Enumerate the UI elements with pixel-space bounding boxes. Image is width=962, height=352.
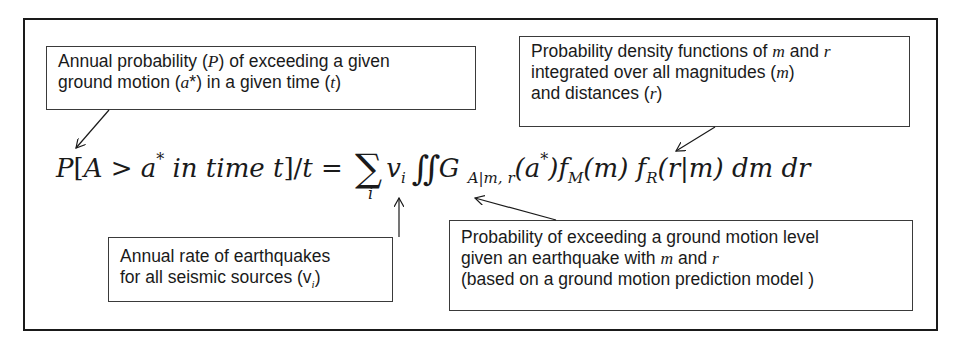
arrow-to-G-subscript [475, 198, 556, 220]
arrow-to-P [76, 110, 109, 148]
arrow-to-fR [676, 127, 715, 151]
annotation-arrows [0, 0, 962, 352]
